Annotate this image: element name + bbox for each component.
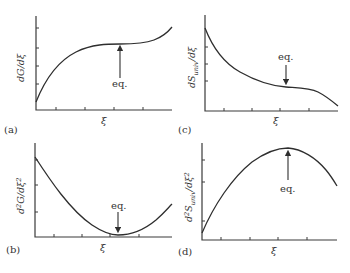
panel-a-y-label: dG/dξ bbox=[15, 53, 26, 82]
panel-b-y-label: d2G/dξ2 bbox=[15, 178, 27, 214]
panel-c-eq-label: eq. bbox=[278, 51, 294, 62]
panel-d-x-label: ξ bbox=[271, 245, 277, 256]
panel-b-ticks bbox=[35, 160, 139, 237]
panel-b-eq-label: eq. bbox=[111, 200, 127, 211]
panel-a-x-label: ξ bbox=[101, 115, 107, 126]
panel-b-label: (b) bbox=[6, 244, 20, 255]
panel-c-axes bbox=[205, 15, 338, 111]
figure-canvas: eq. ξ dG/dξ (a) eq. ξ dSuniv/dξ (c) bbox=[0, 0, 350, 273]
panel-b: eq. ξ d2G/dξ2 (b) bbox=[6, 143, 172, 255]
panel-a-curve bbox=[36, 27, 172, 102]
panel-d-label: (d) bbox=[178, 246, 192, 257]
panel-c-x-label: ξ bbox=[273, 115, 279, 126]
panel-d-y-label: d2Suniv/dξ2 bbox=[183, 172, 197, 222]
panel-c-y-label: dSuniv/dξ bbox=[186, 46, 200, 88]
panel-a-label: (a) bbox=[4, 124, 18, 135]
panel-c-label: (c) bbox=[178, 124, 192, 135]
panel-a-axes bbox=[36, 16, 172, 110]
panel-b-x-label: ξ bbox=[100, 242, 106, 253]
panel-a-ticks bbox=[36, 28, 143, 110]
panel-a: eq. ξ dG/dξ (a) bbox=[4, 16, 172, 135]
panel-c: eq. ξ dSuniv/dξ (c) bbox=[178, 15, 338, 135]
panel-d-axes bbox=[202, 143, 337, 240]
panel-d-curve bbox=[202, 148, 337, 233]
panel-d-ticks bbox=[202, 160, 307, 240]
panel-b-curve bbox=[35, 157, 172, 235]
panel-c-curve bbox=[205, 28, 338, 106]
panel-d: eq. ξ d2Suniv/dξ2 (d) bbox=[178, 143, 337, 257]
panel-a-eq-label: eq. bbox=[112, 78, 128, 89]
panel-d-eq-label: eq. bbox=[280, 183, 296, 194]
